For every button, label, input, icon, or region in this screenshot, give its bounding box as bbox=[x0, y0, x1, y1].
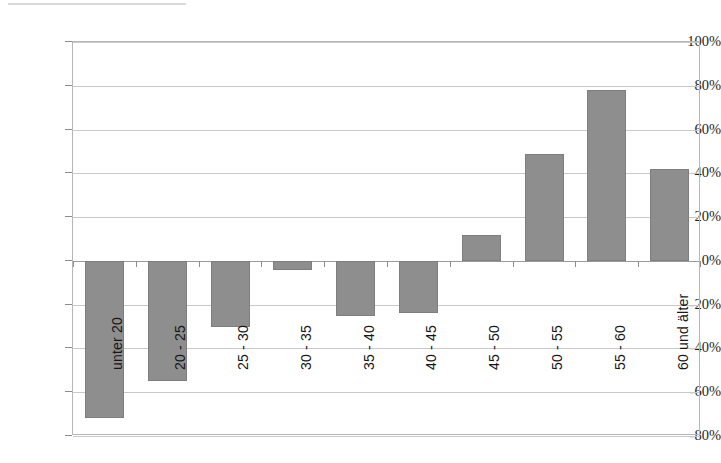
gridline--60 bbox=[73, 392, 699, 393]
y-axis-tick bbox=[65, 260, 72, 261]
plot-area bbox=[72, 41, 700, 435]
x-axis-tick bbox=[73, 261, 74, 267]
bar bbox=[399, 261, 438, 314]
x-axis-tick bbox=[638, 261, 639, 267]
x-axis-category-label: 30 - 35 bbox=[298, 325, 314, 370]
y-axis-tick bbox=[65, 41, 72, 42]
x-axis-category-label: unter 20 bbox=[109, 317, 125, 370]
bar bbox=[273, 261, 312, 270]
y-axis-tick bbox=[65, 129, 72, 130]
x-axis-category-label: 60 und älter bbox=[675, 294, 691, 370]
y-axis-tick bbox=[65, 172, 72, 173]
x-axis-tick bbox=[513, 261, 514, 267]
y-axis-tick bbox=[65, 304, 72, 305]
x-axis-tick bbox=[450, 261, 451, 267]
bar bbox=[336, 261, 375, 316]
bar bbox=[211, 261, 250, 327]
x-axis-tick bbox=[700, 261, 701, 267]
y-axis-tick bbox=[65, 435, 72, 436]
x-axis-category-label: 20 - 25 bbox=[172, 325, 188, 370]
x-axis-tick bbox=[387, 261, 388, 267]
x-axis-tick bbox=[575, 261, 576, 267]
bar-chart: 100%80%60%40%20%0%-20%-40%-60%-80% unter… bbox=[0, 0, 721, 463]
scan-artifact-line bbox=[8, 3, 186, 5]
x-axis-category-label: 25 - 30 bbox=[235, 325, 251, 370]
x-axis-category-label: 55 - 60 bbox=[612, 325, 628, 370]
x-axis-tick bbox=[261, 261, 262, 267]
gridline-100 bbox=[73, 42, 699, 43]
y-axis-tick bbox=[65, 347, 72, 348]
bar bbox=[525, 154, 564, 261]
bar bbox=[587, 90, 626, 261]
bar bbox=[462, 235, 501, 261]
x-axis-tick bbox=[199, 261, 200, 267]
x-axis-category-label: 40 - 45 bbox=[423, 325, 439, 370]
bar bbox=[650, 169, 689, 261]
gridline--80 bbox=[73, 436, 699, 437]
x-axis-tick bbox=[136, 261, 137, 267]
y-axis-tick bbox=[65, 216, 72, 217]
x-axis-category-label: 35 - 40 bbox=[361, 325, 377, 370]
y-axis-tick bbox=[65, 391, 72, 392]
y-axis-tick bbox=[65, 85, 72, 86]
gridline-80 bbox=[73, 86, 699, 87]
x-axis-tick bbox=[324, 261, 325, 267]
x-axis-category-label: 50 - 55 bbox=[549, 325, 565, 370]
x-axis-category-label: 45 - 50 bbox=[486, 325, 502, 370]
